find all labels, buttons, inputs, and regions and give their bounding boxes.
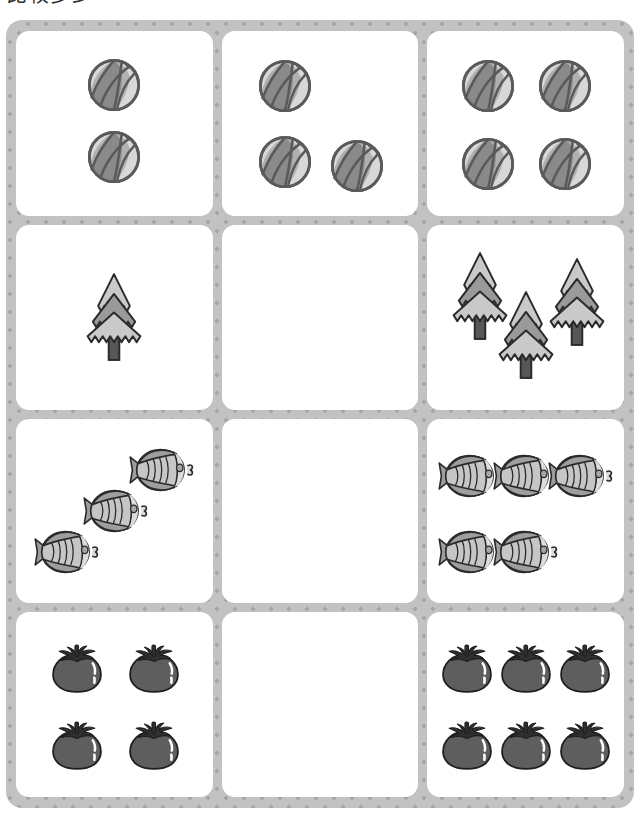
cell-contents [222, 31, 419, 216]
beach-ball-item [460, 58, 516, 114]
beach-ball-item [86, 57, 142, 113]
beach-ball-item [257, 134, 313, 190]
tomato-icon [498, 718, 554, 772]
grid-cell-tomatoes-four [16, 612, 213, 797]
beach-ball-icon [86, 129, 142, 185]
beach-ball-item [537, 58, 593, 114]
tomato-icon [557, 718, 613, 772]
tomato-item [49, 641, 105, 695]
fish-item [491, 526, 561, 578]
grid-cell-trees-one [16, 225, 213, 410]
fir-tree-icon [81, 271, 147, 371]
beach-ball-icon [257, 134, 313, 190]
beach-ball-icon [537, 58, 593, 114]
grid-cell-balls-two [16, 31, 213, 216]
grid-cell-balls-four [427, 31, 624, 216]
cell-contents [222, 419, 419, 604]
grid-cell-trees-answer-blank[interactable] [222, 225, 419, 410]
grid-cell-fish-five [427, 419, 624, 604]
cell-contents [16, 31, 213, 216]
tomato-item [557, 641, 613, 695]
tomato-icon [49, 718, 105, 772]
beach-ball-item [460, 136, 516, 192]
tomato-item [557, 718, 613, 772]
grid-cell-fish-answer-blank[interactable] [222, 419, 419, 604]
cell-contents [222, 225, 419, 410]
beach-ball-item [86, 129, 142, 185]
worksheet-board [6, 20, 634, 808]
fish-item [32, 526, 102, 578]
fish-icon [546, 450, 616, 502]
tomato-item [498, 718, 554, 772]
picture-grid [6, 20, 634, 808]
beach-ball-icon [86, 57, 142, 113]
fir-tree-item [544, 256, 610, 356]
worksheet-title-strip: 比较多少 [0, 0, 640, 14]
tomato-icon [557, 641, 613, 695]
beach-ball-item [537, 136, 593, 192]
tomato-icon [126, 641, 182, 695]
beach-ball-icon [460, 58, 516, 114]
page-title: 比较多少 [6, 0, 94, 5]
grid-cell-fish-three [16, 419, 213, 604]
tomato-icon [439, 641, 495, 695]
cell-contents [427, 225, 624, 410]
beach-ball-item [257, 58, 313, 114]
tomato-icon [498, 641, 554, 695]
tomato-item [126, 641, 182, 695]
tomato-item [439, 641, 495, 695]
grid-cell-tomatoes-six [427, 612, 624, 797]
cell-contents [16, 419, 213, 604]
tomato-icon [439, 718, 495, 772]
tomato-item [498, 641, 554, 695]
cell-contents [16, 225, 213, 410]
tomato-item [439, 718, 495, 772]
beach-ball-item [329, 138, 385, 194]
cell-contents [427, 419, 624, 604]
tomato-icon [126, 718, 182, 772]
fir-tree-item [81, 271, 147, 371]
fish-item [546, 450, 616, 502]
fish-icon [32, 526, 102, 578]
beach-ball-icon [329, 138, 385, 194]
tomato-item [49, 718, 105, 772]
beach-ball-icon [460, 136, 516, 192]
tomato-icon [49, 641, 105, 695]
cell-contents [427, 612, 624, 797]
fish-icon [491, 526, 561, 578]
cell-contents [222, 612, 419, 797]
grid-cell-trees-three [427, 225, 624, 410]
grid-cell-balls-three [222, 31, 419, 216]
cell-contents [427, 31, 624, 216]
beach-ball-icon [257, 58, 313, 114]
beach-ball-icon [537, 136, 593, 192]
cell-contents [16, 612, 213, 797]
grid-cell-tomatoes-answer-blank[interactable] [222, 612, 419, 797]
tomato-item [126, 718, 182, 772]
fir-tree-icon [544, 256, 610, 356]
